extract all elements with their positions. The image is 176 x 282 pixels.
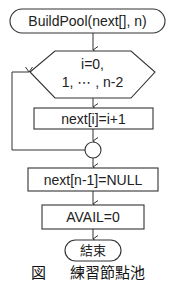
set-avail-label: AVAIL=0 [42, 209, 144, 225]
loop-label-line2: 1, ⋯ , n-2 [30, 74, 155, 90]
set-null-label: next[n-1]=NULL [28, 172, 158, 188]
figure-caption: 図 練習節點池 [0, 264, 176, 282]
start-label: BuildPool(next[], n) [10, 13, 165, 29]
loop-label-line1: i=0, [30, 56, 155, 72]
end-label: 結束 [65, 243, 121, 259]
loop-body-label: next[i]=i+1 [34, 111, 153, 127]
loop-connector [85, 142, 101, 158]
